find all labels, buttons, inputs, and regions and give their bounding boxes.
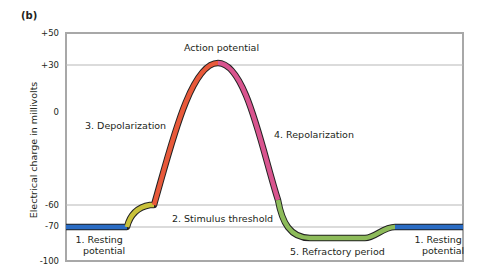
label-stimulus-threshold: 2. Stimulus threshold <box>172 213 273 224</box>
refractory-segment <box>278 200 395 238</box>
label-action-potential: Action potential <box>184 42 259 53</box>
label-resting-left-line1: 1. Resting <box>73 234 125 245</box>
label-resting-left-line2: potential <box>73 245 125 256</box>
label-resting-right: 1. Resting potential <box>412 234 464 256</box>
label-refractory-period: 5. Refractory period <box>290 246 385 257</box>
label-resting-right-line2: potential <box>412 245 464 256</box>
depolarization-segment <box>154 63 218 205</box>
label-resting-right-line1: 1. Resting <box>412 234 464 245</box>
label-depolarization: 3. Depolarization <box>85 120 166 131</box>
label-resting-left: 1. Resting potential <box>73 234 125 256</box>
label-repolarization: 4. Repolarization <box>274 129 354 140</box>
